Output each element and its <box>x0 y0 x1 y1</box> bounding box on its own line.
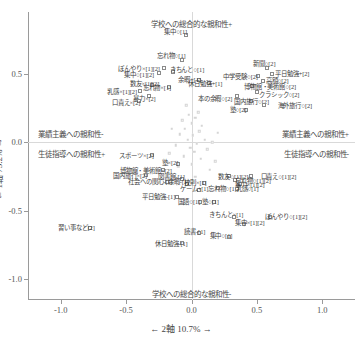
cloud-point <box>188 114 191 117</box>
cloud-point <box>209 168 212 171</box>
x-tick <box>61 300 62 304</box>
cloud-point <box>190 163 193 166</box>
data-point-label: 新聞○[2] <box>253 59 276 68</box>
y-axis-line <box>28 12 29 300</box>
x-tick-label: -1.0 <box>54 305 67 315</box>
cloud-point <box>186 138 189 141</box>
annotation-left-upper: 業績主義への親和性- <box>38 128 104 139</box>
data-point-label: 海外旅行○[2] <box>278 100 313 109</box>
y-tick-label: -1.0 <box>9 274 22 284</box>
data-point-label: ゲーム+[1] <box>180 184 208 193</box>
x-tick-label: 1.0 <box>317 305 328 315</box>
x-tick-label: -0.5 <box>119 305 132 315</box>
horizontal-zero-line <box>28 142 355 143</box>
x-tick <box>126 300 127 304</box>
data-point-label: 本の余暇○[2] <box>198 93 233 102</box>
plot-area: -1.0-0.50.00.51.00.50.0-0.5-1.0 学校への総合的な… <box>28 12 355 300</box>
data-point-label: 平日勉強-[1] <box>142 192 175 201</box>
x-tick-label: 0.5 <box>252 305 263 315</box>
data-point-label: 習い事など[2] <box>58 223 95 232</box>
y-tick <box>24 142 28 143</box>
cloud-point <box>214 160 217 163</box>
correspondence-analysis-chart: -1.0-0.50.00.51.00.50.0-0.5-1.0 学校への総合的な… <box>0 0 362 338</box>
y-tick-label: 0.5 <box>11 69 22 79</box>
annotation-bottom: 学校への総合的な親和性- <box>152 288 232 299</box>
cloud-point <box>190 122 193 125</box>
cloud-point <box>216 131 219 134</box>
y-tick-label: -0.5 <box>9 206 22 216</box>
data-point-label: きちんと○[1] <box>170 64 205 73</box>
x-tick-label: 0.0 <box>186 305 197 315</box>
cloud-point <box>201 125 204 128</box>
data-point-label: 忘れ物○[1] <box>208 184 237 193</box>
vertical-zero-line <box>192 12 193 300</box>
data-point-marker[interactable] <box>162 66 166 70</box>
data-point-label: 読書-[1] <box>184 227 205 236</box>
data-point-label: スポーツ×[2] <box>119 151 153 160</box>
data-point-label: ぼんやり○[1][2] <box>265 211 307 220</box>
y-tick <box>24 74 28 75</box>
annotation-right-lower: 生徒指導への親和性- <box>284 148 350 159</box>
y-tick <box>24 279 28 280</box>
x-axis-label: ← 2軸 10.7% → <box>150 322 212 335</box>
data-point-label: 乳感○[1] <box>236 184 259 193</box>
data-point-label: 社会への関心-[1] <box>128 177 173 186</box>
cloud-point <box>193 151 196 154</box>
cloud-point <box>198 130 201 133</box>
data-point-label: 塾○[2] <box>230 104 247 113</box>
data-point-label: 塾○[1] <box>202 196 219 205</box>
cloud-point <box>178 133 181 136</box>
cloud-point <box>206 148 209 151</box>
cloud-point <box>185 104 188 107</box>
cloud-point <box>194 116 197 119</box>
x-tick <box>257 300 258 304</box>
data-point-label: 集中○[1] <box>210 230 233 239</box>
x-tick <box>192 300 193 304</box>
cloud-point <box>211 141 214 144</box>
annotation-top: 学校への総合的な親和性+ <box>151 18 232 29</box>
cloud-point <box>192 134 195 137</box>
annotation-right-upper: 業績主義への親和性+ <box>282 128 349 139</box>
data-point-label: 集中×[1][2] <box>235 217 265 226</box>
data-point-label: 休日勉強+[1] <box>188 79 222 88</box>
cloud-point <box>195 142 198 145</box>
data-point-label: 中学受験○[2] <box>223 71 258 80</box>
cloud-point <box>171 127 174 130</box>
cloud-point <box>184 127 187 130</box>
y-tick <box>24 211 28 212</box>
data-point-label: 忘れ物○[1] <box>157 51 186 60</box>
data-point-label: 集中○[1] <box>164 26 187 35</box>
data-point-label: 休日勉強-[1] <box>155 239 188 248</box>
data-point-label: 集中○[1][2] <box>124 69 154 78</box>
y-axis-label: ← 1軸 75.2% → <box>0 138 5 200</box>
cloud-point <box>203 138 206 141</box>
y-tick-label: 0.0 <box>11 137 22 147</box>
cloud-point <box>189 147 192 150</box>
cloud-point <box>175 144 178 147</box>
cloud-point <box>182 155 185 158</box>
cloud-point <box>168 152 171 155</box>
data-point-label: 国語○[1] <box>178 197 201 206</box>
annotation-left-lower: 生徒指導への親和性+ <box>38 148 105 159</box>
data-point-marker[interactable] <box>262 103 266 107</box>
data-point-label: 忘れ物×[1] <box>143 83 171 92</box>
data-point-marker[interactable] <box>157 71 161 75</box>
x-tick <box>322 300 323 304</box>
cloud-point <box>197 111 200 114</box>
cloud-point <box>181 119 184 122</box>
cloud-point <box>199 157 202 160</box>
data-point-label: 口責え×[2] <box>112 97 140 106</box>
